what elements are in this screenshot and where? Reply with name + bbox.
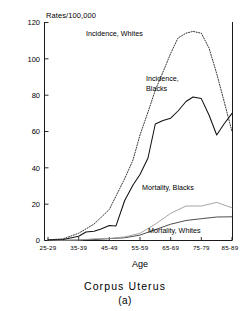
label-incidence-blacks-line1: Incidence,	[146, 74, 179, 83]
label-incidence-blacks-line2: Blacks	[146, 84, 168, 93]
x-tick-85-89: 85-89	[222, 244, 239, 251]
y-tick-100: 100	[27, 55, 40, 64]
figure-subtitle: (a)	[118, 295, 132, 306]
axis-lines	[45, 22, 233, 241]
x-tick-75-79: 75-79	[193, 244, 210, 251]
y-tick-labels: 0 20 40 60 80 100 120	[27, 18, 40, 245]
x-tick-45-49: 45-49	[101, 244, 118, 251]
label-incidence-whites: Incidence, Whites	[86, 29, 143, 38]
x-tick-35-39: 35-39	[70, 244, 87, 251]
y-axis-label: Rates/100,000	[46, 11, 96, 20]
label-mortality-blacks: Mortality, Blacks	[142, 183, 194, 192]
y-tick-120: 120	[27, 18, 40, 27]
x-tick-25-29: 25-29	[40, 244, 57, 251]
figure-title: Corpus Uterus	[84, 280, 166, 292]
y-tick-marks	[45, 23, 49, 241]
chart-figure: Rates/100,000 0 20 40 60 80 100 120 25-2…	[0, 0, 250, 311]
y-tick-80: 80	[32, 91, 40, 100]
series-incidence-whites	[48, 31, 232, 240]
label-mortality-whites: Mortality, Whites	[148, 226, 201, 235]
x-tick-55-59: 55-59	[132, 244, 149, 251]
x-tick-labels: 25-29 35-39 45-49 55-59 65-69 75-79 85-8…	[40, 244, 239, 251]
x-axis-title: Age	[132, 259, 148, 269]
y-tick-20: 20	[32, 200, 40, 209]
series-mortality-blacks	[48, 202, 232, 240]
y-tick-40: 40	[32, 164, 40, 173]
x-tick-65-69: 65-69	[162, 244, 179, 251]
y-tick-60: 60	[32, 127, 40, 136]
corpus-uterus-line-chart: Rates/100,000 0 20 40 60 80 100 120 25-2…	[0, 0, 250, 311]
